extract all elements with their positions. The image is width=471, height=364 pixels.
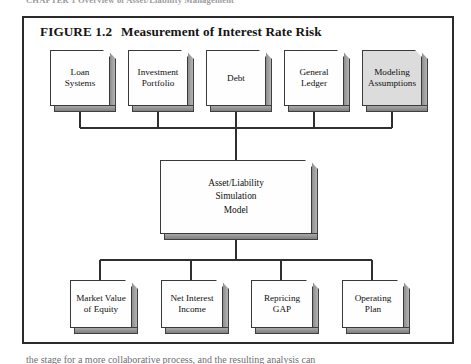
box-label: Market Value of Equity [73, 293, 129, 315]
box-label: Modeling Assumptions [365, 67, 419, 89]
box-face: Asset/Liability Simulation Model [160, 160, 312, 234]
box-shadow-bottom [255, 328, 319, 334]
box-label-line2: Portfolio [142, 78, 175, 88]
box-label: Operating Plan [352, 293, 395, 315]
box-label-line2: GAP [273, 304, 291, 314]
box-face: Net Interest Income [161, 280, 223, 328]
box-label-line1: Modeling [374, 67, 410, 77]
figure-title-text: Measurement of Interest Rate Risk [121, 24, 322, 39]
box-face: Debt [206, 50, 266, 106]
model-box-asset-liability-simulation[interactable]: Asset/Liability Simulation Model [160, 160, 312, 234]
input-box-loan-systems[interactable]: Loan Systems [50, 50, 110, 106]
figure-title: FIGURE 1.2Measurement of Interest Rate R… [40, 24, 322, 40]
output-box-repricing-gap[interactable]: Repricing GAP [251, 280, 313, 328]
box-label-line1: Debt [227, 73, 245, 83]
box-shadow-side [312, 163, 318, 234]
box-label: Debt [224, 73, 248, 84]
box-shadow-bottom [210, 106, 272, 112]
box-shadow-side [223, 283, 229, 328]
box-label: Investment Portfolio [135, 67, 182, 89]
input-box-modeling-assumptions[interactable]: Modeling Assumptions [362, 50, 422, 106]
box-label-line1: Repricing [264, 293, 300, 303]
box-shadow-side [266, 53, 272, 106]
box-face: General Ledger [284, 50, 344, 106]
box-shadow-side [344, 53, 350, 106]
box-label: Asset/Liability Simulation Model [205, 177, 267, 218]
figure-number: FIGURE 1.2 [40, 24, 112, 39]
box-shadow-bottom [132, 106, 194, 112]
box-shadow-side [404, 283, 410, 328]
box-label-line2: of Equity [84, 304, 118, 314]
page-body-text: the stage for a more collaborative proce… [26, 354, 446, 364]
box-shadow-side [313, 283, 319, 328]
box-label: General Ledger [296, 67, 331, 89]
box-label-line1: Operating [355, 293, 392, 303]
box-label-line2: Simulation [215, 191, 256, 201]
box-face: Loan Systems [50, 50, 110, 106]
box-shadow-side [422, 53, 428, 106]
box-shadow-bottom [164, 234, 318, 240]
box-label-line1: Loan [71, 67, 90, 77]
output-box-operating-plan[interactable]: Operating Plan [342, 280, 404, 328]
box-shadow-bottom [74, 328, 138, 334]
box-shadow-side [132, 283, 138, 328]
output-box-net-interest-income[interactable]: Net Interest Income [161, 280, 223, 328]
box-label-line1: General [299, 67, 328, 77]
box-label-line1: Investment [138, 67, 179, 77]
box-label-line1: Asset/Liability [208, 178, 264, 188]
box-shadow-bottom [54, 106, 116, 112]
box-face: Repricing GAP [251, 280, 313, 328]
box-shadow-bottom [288, 106, 350, 112]
figure-frame: FIGURE 1.2Measurement of Interest Rate R… [22, 16, 454, 344]
box-face: Market Value of Equity [70, 280, 132, 328]
box-face: Modeling Assumptions [362, 50, 422, 106]
box-face: Operating Plan [342, 280, 404, 328]
box-face: Investment Portfolio [128, 50, 188, 106]
box-label: Repricing GAP [261, 293, 303, 315]
box-label-line2: Assumptions [368, 78, 416, 88]
input-box-investment-portfolio[interactable]: Investment Portfolio [128, 50, 188, 106]
page-running-header: CHAPTER 1 Overview of Asset/Liability Ma… [26, 0, 446, 5]
output-box-market-value-of-equity[interactable]: Market Value of Equity [70, 280, 132, 328]
box-label-line3: Model [224, 205, 248, 215]
box-label-line1: Net Interest [170, 293, 213, 303]
box-label-line1: Market Value [76, 293, 126, 303]
box-label-line2: Income [178, 304, 206, 314]
box-label-line2: Plan [365, 304, 381, 314]
box-label-line2: Systems [65, 78, 96, 88]
box-label-line2: Ledger [301, 78, 327, 88]
box-label: Net Interest Income [167, 293, 216, 315]
box-label: Loan Systems [62, 67, 99, 89]
box-shadow-bottom [165, 328, 229, 334]
box-shadow-bottom [366, 106, 428, 112]
box-shadow-side [188, 53, 194, 106]
box-shadow-side [110, 53, 116, 106]
input-box-debt[interactable]: Debt [206, 50, 266, 106]
input-box-general-ledger[interactable]: General Ledger [284, 50, 344, 106]
box-shadow-bottom [346, 328, 410, 334]
